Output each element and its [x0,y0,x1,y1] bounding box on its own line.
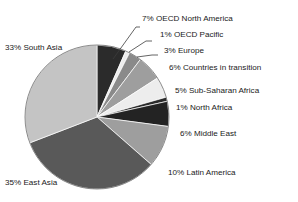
callout-oecd-north-america: 7% OECD North America [142,14,233,23]
callout-latin-america: 10% Latin America [168,168,236,177]
callout-sub-saharan-africa: 5% Sub-Saharan Africa [175,86,260,95]
callout-east-asia: 35% East Asia [5,178,58,187]
callout-oecd-pacific: 1% OECD Pacific [160,30,223,39]
pie-chart-figure: 7% OECD North America 1% OECD Pacific 3%… [0,0,298,202]
pie-slices [25,45,169,189]
leader-line-oecd-pacific [129,41,152,52]
callout-middle-east: 6% Middle East [180,129,237,138]
callout-south-asia: 33% South Asia [5,43,63,52]
callout-north-africa: 1% North Africa [176,103,233,112]
callout-countries-in-transition: 6% Countries in transition [169,63,261,72]
leader-line-europe [137,55,158,57]
callout-europe: 3% Europe [164,46,205,55]
pie-chart-canvas: 7% OECD North America 1% OECD Pacific 3%… [0,0,298,202]
